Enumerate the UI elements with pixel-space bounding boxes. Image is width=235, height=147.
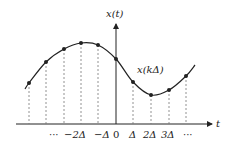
sample-dashed-lines (29, 43, 186, 124)
diagram-canvas (0, 0, 235, 147)
tick-zero: 0 (113, 129, 119, 140)
x-axis-label: t (216, 118, 220, 129)
sampling-diagram: x(t) t x(kΔ) ··· −2Δ −Δ 0 Δ 2Δ 3Δ ··· (0, 0, 235, 147)
tick-ellipsis-right: ··· (183, 129, 193, 140)
tick-3delta: 3Δ (161, 129, 175, 140)
curve-label: x(kΔ) (137, 64, 164, 75)
tick-minus-delta: −Δ (94, 129, 110, 140)
signal-curve (25, 43, 195, 96)
tick-delta: Δ (129, 129, 136, 140)
y-axis-label: x(t) (106, 8, 123, 19)
tick-minus-2delta: −2Δ (64, 129, 86, 140)
tick-ellipsis-left: ··· (49, 129, 59, 140)
tick-2delta: 2Δ (143, 129, 157, 140)
